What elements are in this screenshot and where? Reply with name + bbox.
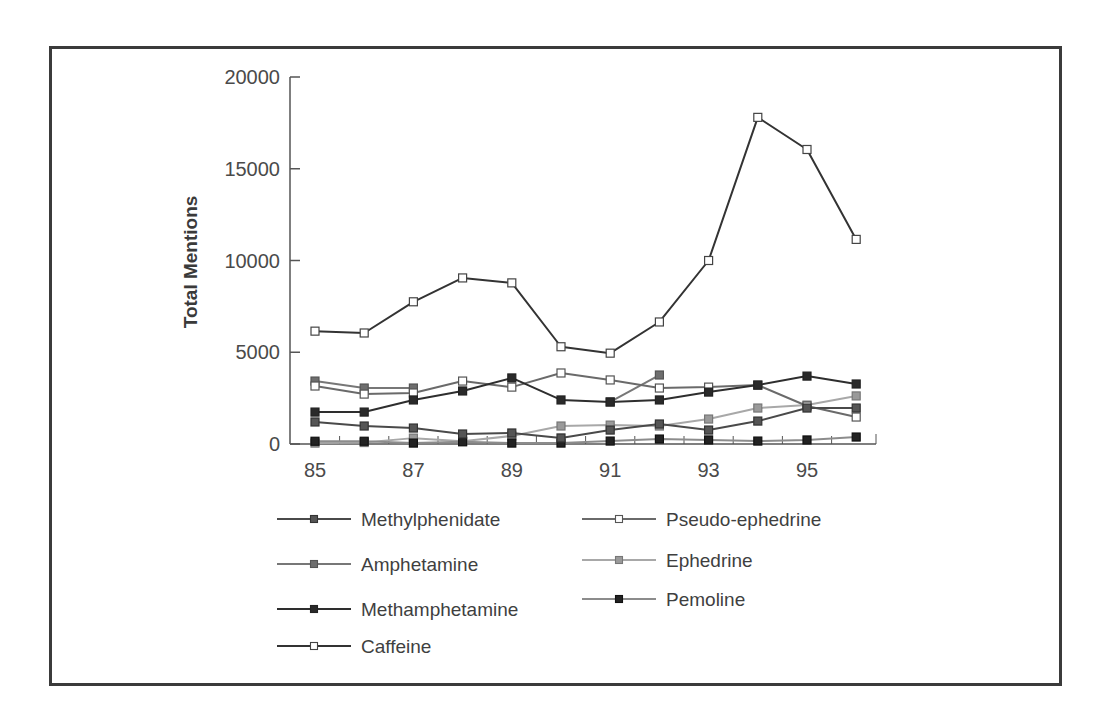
legend-marker-icon <box>311 606 318 613</box>
x-tick-label: 95 <box>796 459 818 481</box>
legend-item-pemoline: Pemoline <box>582 589 745 610</box>
legend-item-caffeine: Caffeine <box>277 636 431 657</box>
data-point-marker <box>655 435 663 443</box>
data-point-marker <box>606 437 614 445</box>
y-tick-label: 15000 <box>224 158 280 180</box>
data-point-marker <box>606 349 614 357</box>
data-point-marker <box>508 429 516 437</box>
x-tick-label: 91 <box>599 459 621 481</box>
legend-marker-icon <box>616 596 623 603</box>
data-point-marker <box>459 377 467 385</box>
legend-label: Methylphenidate <box>361 509 500 530</box>
data-point-marker <box>705 257 713 265</box>
data-point-marker <box>508 279 516 287</box>
legend-marker-icon <box>616 557 623 564</box>
data-point-marker <box>557 343 565 351</box>
data-point-marker <box>311 327 319 335</box>
data-point-marker <box>409 439 417 447</box>
data-point-marker <box>754 113 762 121</box>
x-tick-label: 93 <box>697 459 719 481</box>
legend-item-amphetamine: Amphetamine <box>277 554 478 575</box>
data-point-marker <box>459 430 467 438</box>
line-chart: 05000100001500020000 858789919395 Total … <box>0 0 1102 720</box>
data-point-marker <box>557 434 565 442</box>
data-point-marker <box>852 433 860 441</box>
data-point-marker <box>754 381 762 389</box>
y-tick-label: 10000 <box>224 250 280 272</box>
y-tick-label: 20000 <box>224 66 280 88</box>
data-point-marker <box>311 437 319 445</box>
data-point-marker <box>360 329 368 337</box>
data-point-marker <box>655 371 663 379</box>
data-point-marker <box>754 437 762 445</box>
data-point-marker <box>508 374 516 382</box>
data-point-marker <box>803 404 811 412</box>
legend-label: Pseudo-ephedrine <box>666 509 821 530</box>
data-point-marker <box>705 426 713 434</box>
data-point-marker <box>803 145 811 153</box>
data-point-marker <box>360 437 368 445</box>
data-point-marker <box>754 417 762 425</box>
legend-marker-icon <box>311 561 318 568</box>
data-point-marker <box>311 418 319 426</box>
data-point-marker <box>557 422 565 430</box>
data-point-marker <box>409 396 417 404</box>
data-point-marker <box>360 390 368 398</box>
legend-marker-icon <box>311 643 318 650</box>
x-tick-label: 87 <box>402 459 424 481</box>
legend-marker-icon <box>616 516 623 523</box>
data-point-marker <box>606 426 614 434</box>
legend-item-methamphetamine: Methamphetamine <box>277 599 518 620</box>
y-axis-title: Total Mentions <box>180 196 201 329</box>
data-point-marker <box>655 318 663 326</box>
legend-item-pseudo-ephedrine: Pseudo-ephedrine <box>582 509 821 530</box>
data-point-marker <box>557 369 565 377</box>
data-point-marker <box>557 396 565 404</box>
x-tick-label: 85 <box>304 459 326 481</box>
data-point-marker <box>508 439 516 447</box>
data-point-marker <box>803 436 811 444</box>
data-point-marker <box>852 404 860 412</box>
series-pseudo-ephedrine <box>311 369 860 421</box>
legend-label: Caffeine <box>361 636 431 657</box>
series-caffeine <box>311 113 860 357</box>
data-point-marker <box>655 396 663 404</box>
data-point-marker <box>459 274 467 282</box>
data-point-marker <box>508 383 516 391</box>
legend-label: Methamphetamine <box>361 599 518 620</box>
data-point-marker <box>852 413 860 421</box>
data-point-marker <box>409 298 417 306</box>
legend-label: Pemoline <box>666 589 745 610</box>
legend-label: Ephedrine <box>666 550 753 571</box>
x-tick-label: 89 <box>501 459 523 481</box>
y-tick-label: 5000 <box>236 341 281 363</box>
legend-label: Amphetamine <box>361 554 478 575</box>
data-point-marker <box>705 388 713 396</box>
data-point-marker <box>803 372 811 380</box>
data-point-marker <box>311 382 319 390</box>
data-point-marker <box>655 384 663 392</box>
data-point-marker <box>311 408 319 416</box>
y-axis: 05000100001500020000 <box>224 66 300 455</box>
data-point-marker <box>606 376 614 384</box>
data-point-marker <box>409 424 417 432</box>
y-tick-label: 0 <box>269 433 280 455</box>
legend-marker-icon <box>311 516 318 523</box>
data-point-marker <box>655 420 663 428</box>
legend-item-methylphenidate: Methylphenidate <box>277 509 500 530</box>
data-point-marker <box>705 436 713 444</box>
data-point-marker <box>852 380 860 388</box>
data-point-marker <box>360 422 368 430</box>
data-point-marker <box>754 404 762 412</box>
data-point-marker <box>705 415 713 423</box>
data-point-marker <box>606 398 614 406</box>
data-point-marker <box>852 235 860 243</box>
data-point-marker <box>459 438 467 446</box>
data-point-marker <box>360 408 368 416</box>
data-point-marker <box>852 392 860 400</box>
series-layer <box>311 113 860 447</box>
data-point-marker <box>459 387 467 395</box>
legend: MethylphenidateAmphetamineMethamphetamin… <box>277 509 821 657</box>
legend-item-ephedrine: Ephedrine <box>582 550 753 571</box>
